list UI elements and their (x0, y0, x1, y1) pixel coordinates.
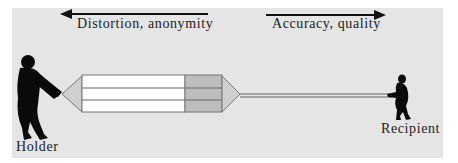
rope-grey-section (185, 75, 222, 112)
diagram-graphics (0, 0, 458, 163)
rope-white-section (82, 75, 185, 112)
right-cone (222, 76, 240, 112)
holder-figure-icon (17, 55, 62, 140)
recipient-figure-icon (387, 75, 411, 121)
left-cone (62, 76, 82, 112)
holder-label: Holder (16, 139, 58, 155)
left-arrow-label: Distortion, anonymity (77, 16, 213, 32)
recipient-label: Recipient (381, 121, 440, 137)
thin-rope (240, 94, 392, 97)
right-arrow-label: Accuracy, quality (272, 16, 381, 32)
